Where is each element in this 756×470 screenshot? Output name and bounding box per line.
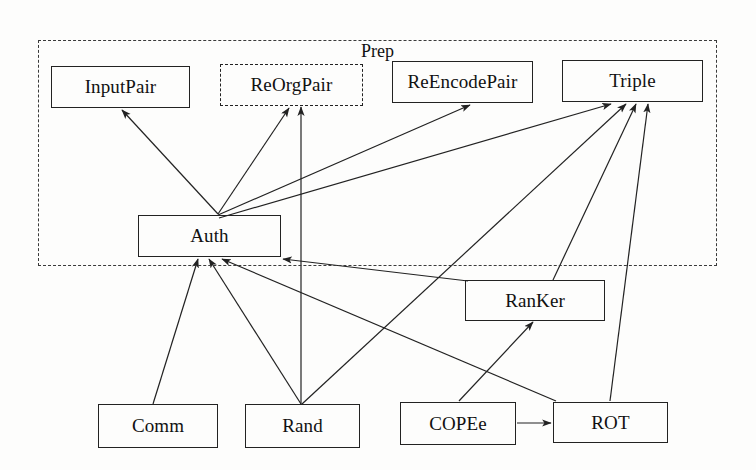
edge-copee-ranker <box>459 322 533 401</box>
node-label-rand: Rand <box>282 415 323 437</box>
node-reencodepair[interactable]: ReEncodePair <box>392 61 533 103</box>
diagram-canvas: Prep InputPairReOrgPairReEncodePairTripl… <box>0 0 756 470</box>
node-label-rot: ROT <box>591 412 629 434</box>
edge-comm-auth <box>153 259 198 404</box>
node-label-copee: COPEe <box>429 413 487 435</box>
node-label-triple: Triple <box>609 70 655 92</box>
node-inputpair[interactable]: InputPair <box>51 66 190 108</box>
edge-rand-auth <box>209 259 301 404</box>
node-label-reencodepair: ReEncodePair <box>408 71 518 93</box>
node-rand[interactable]: Rand <box>245 404 360 448</box>
node-copee[interactable]: COPEe <box>400 402 516 445</box>
node-reorgpair[interactable]: ReOrgPair <box>220 64 363 106</box>
node-auth[interactable]: Auth <box>138 215 281 257</box>
node-label-inputpair: InputPair <box>85 76 157 98</box>
node-label-reorgpair: ReOrgPair <box>251 74 333 96</box>
group-label-prep: Prep <box>357 41 398 62</box>
node-rot[interactable]: ROT <box>553 402 668 443</box>
node-label-comm: Comm <box>132 415 184 437</box>
node-label-auth: Auth <box>190 225 228 247</box>
node-triple[interactable]: Triple <box>562 60 703 102</box>
node-comm[interactable]: Comm <box>98 404 218 448</box>
node-label-ranker: RanKer <box>505 290 565 312</box>
node-ranker[interactable]: RanKer <box>465 280 605 321</box>
